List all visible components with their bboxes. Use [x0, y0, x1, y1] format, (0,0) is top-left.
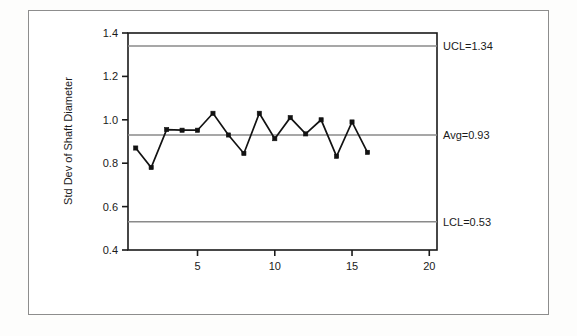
y-axis-tick-label: 1.4 — [103, 27, 118, 39]
data-point-marker — [134, 146, 138, 150]
data-point-marker — [334, 154, 338, 158]
data-point-marker — [273, 137, 277, 141]
plot-frame — [128, 33, 437, 250]
plot-frame-rect — [128, 33, 437, 250]
data-point-marker — [195, 128, 199, 132]
control-limit-label: LCL=0.53 — [443, 216, 491, 228]
control-limit-labels: UCL=1.34Avg=0.93LCL=0.53 — [443, 40, 493, 228]
control-chart-plot: 0.40.60.81.01.21.4 5101520 UCL=1.34Avg=0… — [0, 0, 577, 336]
x-axis-tick-label: 5 — [194, 260, 200, 272]
y-axis-tick-label: 0.6 — [103, 201, 118, 213]
y-axis-tick-label: 0.8 — [103, 157, 118, 169]
data-point-marker — [149, 165, 153, 169]
data-point-marker — [165, 127, 169, 131]
control-limit-label: Avg=0.93 — [443, 129, 490, 141]
y-axis: 0.40.60.81.01.21.4 — [103, 27, 128, 256]
data-point-marker — [288, 116, 292, 120]
control-limit-label: UCL=1.34 — [443, 40, 493, 52]
y-axis-tick-label: 1.0 — [103, 114, 118, 126]
y-axis-tick-label: 1.2 — [103, 70, 118, 82]
data-point-marker — [226, 133, 230, 137]
x-axis: 5101520 — [194, 250, 435, 272]
data-point-marker — [350, 120, 354, 124]
data-point-marker — [242, 151, 246, 155]
data-point-marker — [319, 118, 323, 122]
data-point-marker — [365, 150, 369, 154]
x-axis-tick-label: 15 — [346, 260, 358, 272]
data-point-marker — [304, 132, 308, 136]
data-point-marker — [211, 111, 215, 115]
data-point-marker — [180, 128, 184, 132]
y-axis-title: Std Dev of Shaft Diameter — [62, 77, 74, 205]
x-axis-tick-label: 10 — [269, 260, 281, 272]
y-axis-tick-label: 0.4 — [103, 244, 118, 256]
control-chart-figure: 0.40.60.81.01.21.4 5101520 UCL=1.34Avg=0… — [0, 0, 577, 336]
x-axis-tick-label: 20 — [423, 260, 435, 272]
data-point-marker — [257, 111, 261, 115]
